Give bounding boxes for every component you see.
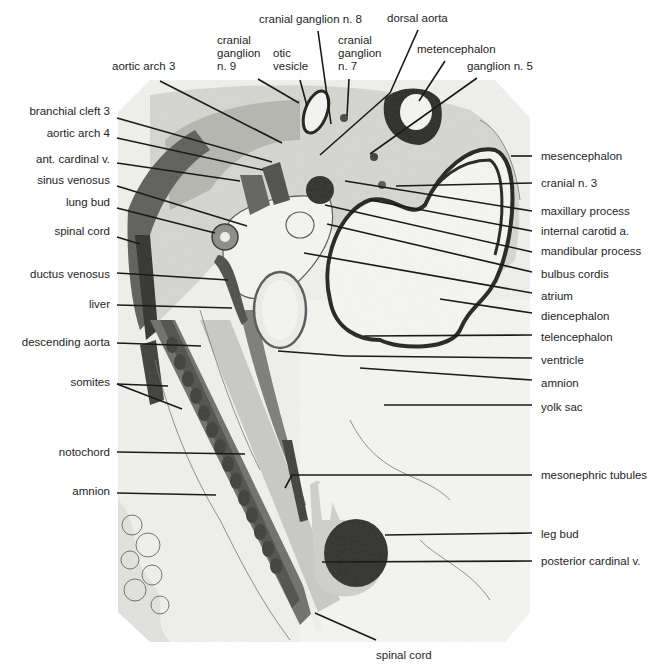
micrograph-plate [110, 75, 540, 660]
label-yolk-sac: yolk sac [541, 401, 583, 414]
label-dorsal-aorta: dorsal aorta [387, 12, 448, 25]
label-ventricle: ventricle [541, 354, 584, 367]
label-branchial-cleft-3: branchial cleft 3 [29, 105, 110, 118]
label-bulbus-cordis: bulbus cordis [541, 268, 609, 281]
label-descending-aorta: descending aorta [22, 336, 110, 349]
label-cranial-ganglion-9: cranial ganglion n. 9 [217, 34, 260, 73]
label-spinal-cord-lower: spinal cord [376, 649, 432, 662]
label-mesonephric-tubules: mesonephric tubules [541, 469, 647, 482]
label-leg-bud: leg bud [541, 528, 579, 541]
label-cranial-ganglion-8: cranial ganglion n. 8 [259, 13, 362, 26]
label-aortic-arch-4: aortic arch 4 [47, 127, 110, 140]
label-notochord: notochord [59, 446, 110, 459]
label-cranial-ganglion-7: cranial ganglion n. 7 [338, 34, 381, 73]
label-metencephalon: metencephalon [417, 43, 496, 56]
label-posterior-cardinal-v: posterior cardinal v. [541, 555, 641, 568]
label-ganglion-5: ganglion n. 5 [467, 60, 533, 73]
label-lung-bud: lung bud [66, 196, 110, 209]
label-maxillary-process: maxillary process [541, 205, 630, 218]
label-amnion-right: amnion [541, 377, 579, 390]
label-amnion-left: amnion [72, 485, 110, 498]
label-spinal-cord-upper: spinal cord [54, 225, 110, 238]
label-telencephalon: telencephalon [541, 331, 613, 344]
label-diencephalon: diencephalon [541, 310, 609, 323]
label-ant-cardinal-v: ant. cardinal v. [36, 153, 110, 166]
label-mesencephalon: mesencephalon [541, 150, 622, 163]
label-liver: liver [89, 298, 110, 311]
embryo-section-figure: aortic arch 3 cranial ganglion n. 9 otic… [0, 0, 669, 672]
label-internal-carotid-a: internal carotid a. [541, 225, 629, 238]
label-otic-vesicle: otic vesicle [273, 47, 308, 73]
label-cranial-n-3: cranial n. 3 [541, 177, 597, 190]
label-somites: somites [70, 376, 110, 389]
label-sinus-venosus: sinus venosus [37, 174, 110, 187]
label-mandibular-process: mandibular process [541, 245, 641, 258]
label-ductus-venosus: ductus venosus [30, 268, 110, 281]
label-aortic-arch-3: aortic arch 3 [112, 60, 175, 73]
label-atrium: atrium [541, 290, 573, 303]
